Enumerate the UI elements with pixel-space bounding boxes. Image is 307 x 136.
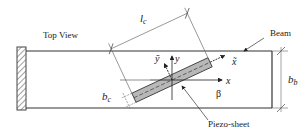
fixed-wall-hatch [17, 47, 26, 110]
bb-dimension [272, 47, 288, 112]
bb-label: bb [288, 73, 298, 87]
ytilde-label: ỹ [154, 53, 160, 64]
lc-label: lc [140, 12, 147, 26]
diagram-canvas: bb lc Top View Beam ỹ y x̃ x β bc Piezo-… [0, 0, 307, 136]
beta-label: β [216, 88, 221, 99]
piezo-sheet [98, 1, 229, 111]
beam-leader [244, 38, 264, 51]
xtilde-label: x̃ [231, 56, 237, 67]
piezo-label: Piezo-sheet [208, 119, 250, 129]
top-view-label: Top View [43, 30, 78, 40]
beam-piezo-diagram: bb lc Top View Beam ỹ y x̃ x β bc Piezo-… [0, 0, 307, 136]
beam-label: Beam [270, 28, 291, 38]
y-label: y [174, 53, 180, 64]
piezo-leader [182, 86, 208, 120]
bc-label: bc [102, 90, 112, 104]
x-label: x [225, 75, 231, 86]
